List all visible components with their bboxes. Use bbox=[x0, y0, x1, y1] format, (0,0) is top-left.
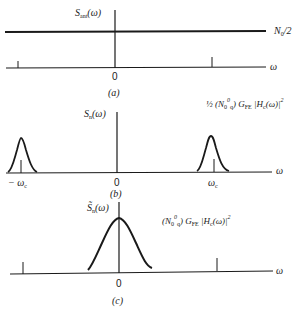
panel-b-omega-c-label: ωc bbox=[208, 178, 218, 189]
panel-a-y-axis-label: Sant(ω) bbox=[75, 8, 101, 19]
panel-b-x-axis-label: ω bbox=[276, 166, 283, 176]
panel-b-origin-label: 0 bbox=[114, 178, 120, 188]
panel-c-curve-label: (N00q) GFE |Hc(ω)|2 bbox=[162, 214, 231, 227]
panel-c-graphics bbox=[10, 202, 273, 274]
panel-b-neg-omega-c-label: − ωc bbox=[8, 178, 27, 189]
panel-a-x-axis-label: ω bbox=[270, 62, 277, 72]
panel-c-caption: (c) bbox=[112, 296, 123, 306]
panel-a-constant-level bbox=[5, 31, 266, 32]
panel-c-y-axis-label: S̃n(ω) bbox=[87, 203, 109, 214]
panel-c-origin-label: 0 bbox=[116, 279, 122, 289]
figure-drawing bbox=[0, 0, 302, 309]
panel-b-y-axis-label: Sn(ω) bbox=[84, 109, 106, 120]
panel-b-curve-label: ½ (N00q) GFE |Hc(ω)|2 bbox=[206, 97, 284, 110]
panel-b-x-axis bbox=[6, 172, 272, 173]
panel-a-graphics bbox=[5, 10, 266, 68]
panel-a-curve-label: N0/2 bbox=[274, 26, 291, 37]
panel-b-neg-pulse bbox=[8, 138, 37, 172]
panel-c-baseband-pulse bbox=[88, 218, 152, 270]
panel-a-origin-label: 0 bbox=[112, 72, 118, 82]
panel-b-caption: (b) bbox=[110, 189, 122, 199]
panel-a-caption: (a) bbox=[108, 88, 120, 98]
panel-c-x-axis bbox=[10, 271, 273, 274]
panel-c-x-axis-label: ω bbox=[276, 266, 283, 276]
panel-b-pos-pulse bbox=[197, 136, 229, 171]
panel-a-x-axis bbox=[6, 67, 266, 68]
panel-b-graphics bbox=[6, 112, 272, 173]
